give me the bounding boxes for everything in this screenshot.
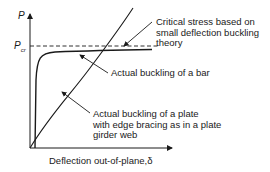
y-axis-label: P [18, 10, 25, 21]
plate-leader [62, 92, 90, 113]
x-axis-label: Deflection out-of-plane,δ [49, 156, 153, 167]
plate-buckling-label: Actual buckling of a plate with edge bra… [93, 109, 221, 141]
pcr-label: Pcr [14, 40, 26, 53]
critical-leader [124, 22, 152, 46]
bar-buckling-label: Actual buckling of a bar [111, 68, 210, 79]
bar-leader [80, 55, 108, 73]
pcr-sub: cr [21, 47, 26, 53]
plate-line-1: Actual buckling of a plate [93, 109, 221, 120]
pcr-main: P [14, 40, 21, 51]
critical-line-1: Critical stress based on [156, 17, 259, 28]
plate-line-3: girder web [93, 130, 221, 141]
critical-stress-label: Critical stress based on small deflectio… [156, 17, 259, 49]
critical-line-3: theory [156, 38, 259, 49]
